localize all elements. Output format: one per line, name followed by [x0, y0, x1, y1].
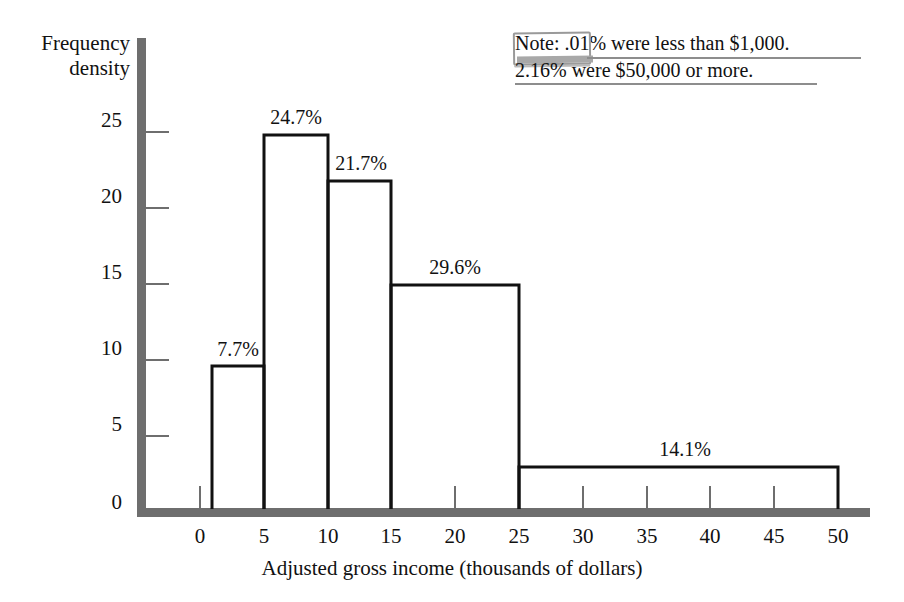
y-tick-marks [146, 132, 169, 436]
y-tick-label-25: 25 [82, 108, 122, 133]
x-tick-label-40: 40 [688, 524, 732, 549]
y-tick-label-10: 10 [82, 336, 122, 361]
x-tick-label-10: 10 [306, 524, 350, 549]
x-axis-title: Adjusted gross income (thousands of doll… [0, 556, 904, 581]
bar-0-5 [212, 366, 264, 509]
x-tick-label-30: 30 [561, 524, 605, 549]
note-annotation: Note:.01% were less than $1,000. 2.16% w… [515, 30, 789, 84]
note-word: Note: [515, 32, 564, 54]
x-tick-label-35: 35 [625, 524, 669, 549]
note-line-2: 2.16% were $50,000 or more. [515, 57, 789, 84]
bar-10-15 [328, 181, 391, 509]
x-tick-label-0: 0 [178, 524, 222, 549]
bar-25-50 [519, 467, 838, 509]
x-tick-label-5: 5 [242, 524, 286, 549]
bar-label-15-25: 29.6% [410, 256, 500, 279]
bar-15-25 [391, 285, 519, 509]
bar-label-10-15: 21.7% [316, 152, 406, 175]
bar-label-25-50: 14.1% [640, 438, 730, 461]
y-axis-title-line2: density [69, 56, 130, 80]
x-axis-line [137, 508, 870, 517]
note-line-1: Note:.01% were less than $1,000. [515, 30, 789, 57]
x-tick-label-25: 25 [497, 524, 541, 549]
y-tick-label-20: 20 [82, 184, 122, 209]
x-tick-label-50: 50 [816, 524, 860, 549]
y-axis-title-line1: Frequency [41, 31, 130, 55]
y-tick-label-0: 0 [82, 490, 122, 515]
note-underline-2 [515, 83, 817, 85]
x-tick-label-45: 45 [752, 524, 796, 549]
note-text-line-1: .01% were less than $1,000. [564, 32, 789, 54]
note-text-line-2: 2.16% were $50,000 or more. [515, 59, 753, 81]
bar-label-5-10: 24.7% [251, 106, 341, 129]
y-axis-title: Frequency density [18, 31, 130, 81]
histogram-bars [212, 135, 838, 509]
y-axis-line [137, 38, 146, 516]
bar-label-0-5: 7.7% [193, 338, 283, 361]
histogram-figure: Frequency density 25 20 15 10 5 0 0 5 10… [0, 0, 904, 602]
plot-area [0, 0, 904, 602]
y-tick-label-15: 15 [82, 260, 122, 285]
y-tick-label-5: 5 [82, 412, 122, 437]
x-tick-label-15: 15 [369, 524, 413, 549]
bar-5-10 [264, 135, 328, 509]
x-tick-label-20: 20 [433, 524, 477, 549]
